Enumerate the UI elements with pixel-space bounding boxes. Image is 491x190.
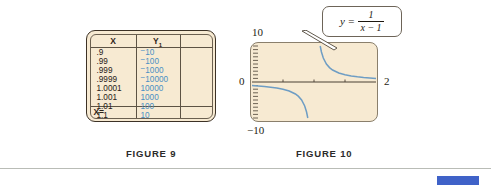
y-axis-min-label: −10 (247, 124, 264, 136)
formula-expression: y = 1 x − 1 (340, 10, 384, 33)
table-header-x: X (91, 36, 136, 46)
footer-accent-block (437, 176, 479, 185)
page-canvas: X Y1 .9 .99 .999 .9999 1.0001 1.001 1.01… (0, 0, 491, 190)
table-cell-y1: 10 (141, 111, 169, 118)
origin-label: 0 (239, 75, 245, 87)
y-axis-max-label: 10 (252, 26, 263, 38)
figure-caption-9: FIGURE 9 (126, 148, 176, 159)
x-axis-max-label: 2 (384, 75, 390, 87)
negative-sign: − (141, 46, 146, 55)
table-column-y1-values: −10−100−1000−1000010000100010010 (141, 48, 169, 119)
negative-sign: − (141, 73, 146, 82)
formula-callout: y = 1 x − 1 (322, 6, 402, 37)
table-cell-y1: 1000 (141, 93, 169, 102)
negative-sign: − (141, 55, 146, 64)
calculator-screen-figure9: X Y1 .9 .99 .999 .9999 1.0001 1.001 1.01… (86, 30, 216, 122)
table-cell-y1: 100 (141, 102, 169, 111)
table-header-y1-subscript: 1 (159, 41, 162, 47)
calculator-entry-line: X= (94, 107, 104, 117)
table-cell-y1: 10000 (141, 84, 169, 93)
formula-fraction: 1 x − 1 (358, 10, 384, 33)
negative-sign: − (141, 64, 146, 73)
calculator-screen-inner-bezel: X Y1 .9 .99 .999 .9999 1.0001 1.001 1.01… (90, 34, 213, 119)
curve-left-branch (252, 86, 308, 118)
formula-numerator: 1 (369, 10, 374, 21)
formula-denominator: x − 1 (360, 22, 381, 33)
formula-left-hand-side: y = (340, 16, 356, 27)
table-cell-y1: −10000 (141, 75, 169, 84)
graph-plot-area (250, 42, 378, 122)
footer-divider-rule (0, 168, 491, 169)
figure-caption-10: FIGURE 10 (296, 148, 352, 159)
